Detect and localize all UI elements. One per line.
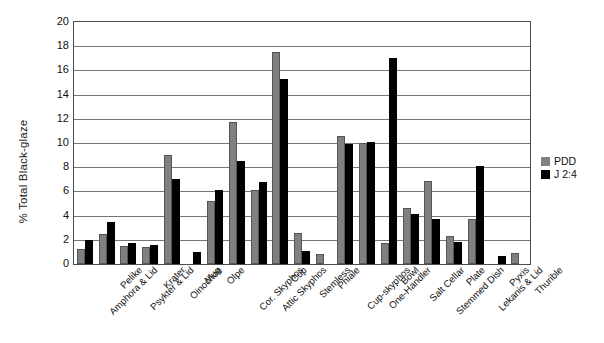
x-tick-label: Salt Cellar bbox=[428, 265, 466, 303]
bar bbox=[432, 219, 440, 264]
bar bbox=[411, 214, 419, 264]
bar bbox=[511, 253, 519, 264]
y-tick-label: 12 bbox=[39, 112, 69, 123]
bar-group bbox=[313, 22, 335, 264]
bar-group bbox=[161, 22, 183, 264]
y-tick-label: 4 bbox=[39, 209, 69, 220]
y-tick-label: 6 bbox=[39, 185, 69, 196]
bar-group bbox=[139, 22, 161, 264]
bar bbox=[164, 155, 172, 264]
bar-group bbox=[356, 22, 378, 264]
bar-group bbox=[443, 22, 465, 264]
bar-chart: % Total Black-glaze 02468101214161820 Am… bbox=[0, 0, 604, 343]
bar-group bbox=[508, 22, 530, 264]
bar bbox=[389, 58, 397, 264]
bar bbox=[280, 79, 288, 264]
bar bbox=[142, 247, 150, 264]
bar-group bbox=[204, 22, 226, 264]
bar bbox=[476, 166, 484, 264]
bar bbox=[193, 252, 201, 264]
bar-group bbox=[74, 22, 96, 264]
bar bbox=[359, 143, 367, 264]
bar bbox=[77, 249, 85, 264]
bar-group bbox=[96, 22, 118, 264]
y-tick-label: 14 bbox=[39, 88, 69, 99]
bar-group bbox=[422, 22, 444, 264]
y-tick-label: 0 bbox=[39, 258, 69, 269]
bar bbox=[403, 208, 411, 264]
bar bbox=[251, 190, 259, 264]
bar-group bbox=[183, 22, 205, 264]
bar bbox=[128, 243, 136, 264]
bar bbox=[99, 234, 107, 264]
bar bbox=[316, 254, 324, 264]
y-tick-label: 18 bbox=[39, 40, 69, 51]
bar bbox=[345, 144, 353, 264]
y-tick-label: 16 bbox=[39, 64, 69, 75]
bar-group bbox=[400, 22, 422, 264]
legend-swatch-icon bbox=[541, 170, 550, 179]
bar bbox=[259, 182, 267, 264]
x-axis-tick-labels: Amphora & LidPelikePsykter & LidKraterOi… bbox=[74, 265, 530, 343]
y-tick-label: 20 bbox=[39, 16, 69, 27]
bar bbox=[294, 233, 302, 264]
bar bbox=[454, 242, 462, 264]
bar bbox=[381, 243, 389, 264]
bar bbox=[150, 245, 158, 264]
bar bbox=[446, 236, 454, 264]
bar-group bbox=[378, 22, 400, 264]
bar bbox=[498, 256, 506, 264]
y-tick-label: 10 bbox=[39, 137, 69, 148]
bar bbox=[120, 246, 128, 264]
x-tick-label: Olpe bbox=[225, 265, 246, 286]
bar-group bbox=[291, 22, 313, 264]
bar-group bbox=[226, 22, 248, 264]
bar bbox=[367, 142, 375, 264]
bar bbox=[302, 251, 310, 264]
bar bbox=[107, 222, 115, 264]
bar bbox=[85, 240, 93, 264]
bar bbox=[468, 219, 476, 264]
bar-group bbox=[117, 22, 139, 264]
bar bbox=[229, 122, 237, 264]
bar bbox=[207, 201, 215, 264]
y-tick-label: 8 bbox=[39, 161, 69, 172]
bar-group bbox=[335, 22, 357, 264]
bar-group bbox=[487, 22, 509, 264]
bars-layer bbox=[74, 22, 530, 264]
legend-item: J 2:4 bbox=[541, 168, 601, 180]
bar bbox=[172, 179, 180, 264]
bar-group bbox=[248, 22, 270, 264]
y-tick-label: 2 bbox=[39, 233, 69, 244]
legend: PDDJ 2:4 bbox=[541, 155, 601, 181]
legend-label: PDD bbox=[554, 156, 576, 167]
bar-group bbox=[269, 22, 291, 264]
bar bbox=[424, 181, 432, 264]
bar bbox=[272, 52, 280, 264]
legend-label: J 2:4 bbox=[554, 169, 577, 180]
bar bbox=[237, 161, 245, 264]
legend-swatch-icon bbox=[541, 157, 550, 166]
bar bbox=[337, 136, 345, 264]
bar-group bbox=[465, 22, 487, 264]
bar bbox=[215, 190, 223, 264]
legend-item: PDD bbox=[541, 155, 601, 167]
